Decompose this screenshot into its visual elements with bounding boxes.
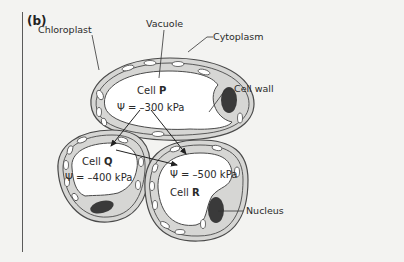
cell-p xyxy=(91,58,254,140)
label-cell-wall: Cell wall xyxy=(234,83,274,94)
label-cytoplasm: Cytoplasm xyxy=(213,31,264,42)
cell-p-vacuole xyxy=(104,71,232,129)
label-chloroplast: Chloroplast xyxy=(38,24,92,35)
cell-r-potential: Ψ = –500 kPa xyxy=(170,169,237,180)
label-nucleus: Nucleus xyxy=(246,205,284,216)
cell-p-potential: Ψ = –300 kPa xyxy=(117,102,184,113)
label-vacuole: Vacuole xyxy=(146,18,183,29)
cell-p-name: Cell P xyxy=(137,85,166,96)
cell-r-nucleus xyxy=(208,197,224,223)
cell-q-name: Cell Q xyxy=(82,156,112,167)
plant-cells-diagram: Chloroplast Vacuole Cytoplasm Cell wall … xyxy=(0,0,404,262)
cell-r-name: Cell R xyxy=(170,187,200,198)
cell-q-potential: Ψ = –400 kPa xyxy=(65,172,132,183)
